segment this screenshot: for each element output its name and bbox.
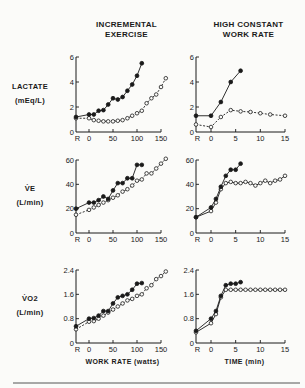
data-point-open (102, 120, 106, 124)
panel-lactate-incremental: 0246R050100150INCREMENTALEXERCISELACTATE… (12, 20, 168, 143)
data-point-open (273, 179, 277, 183)
data-point-open (283, 114, 287, 118)
figure: 0246R050100150INCREMENTALEXERCISELACTATE… (0, 0, 305, 388)
data-point-open (106, 120, 110, 124)
x-tick-label: 5 (234, 134, 238, 143)
data-point-open (249, 288, 253, 292)
x-tick-label: R (75, 235, 81, 244)
data-point-open (283, 174, 287, 178)
y-tick-label: 0 (190, 339, 194, 348)
data-point-filled (121, 181, 125, 185)
data-point-open (209, 209, 213, 213)
y-tick-label: 0 (70, 229, 74, 238)
x-axis-label: WORK RATE (watts) (86, 358, 160, 366)
data-point-open (97, 203, 101, 207)
y-axis-label: V̇O2 (22, 294, 38, 303)
data-point-open (87, 208, 91, 212)
column-title: EXERCISE (105, 30, 148, 39)
x-tick-label: 150 (155, 134, 168, 143)
data-point-open (87, 116, 91, 120)
data-point-filled (92, 201, 96, 205)
data-point-open (102, 201, 106, 205)
data-point-open (74, 213, 78, 217)
data-point-open (92, 206, 96, 210)
x-tick-label: 5 (234, 235, 238, 244)
data-point-filled (121, 95, 125, 99)
data-point-open (268, 113, 272, 117)
y-tick-label: 0.8 (64, 314, 74, 323)
data-point-open (135, 179, 139, 183)
data-point-open (239, 288, 243, 292)
data-point-open (145, 286, 149, 290)
data-point-filled (214, 197, 218, 201)
data-point-open (263, 179, 267, 183)
data-point-open (209, 125, 213, 129)
data-point-filled (194, 329, 198, 333)
data-point-filled (126, 89, 130, 93)
panel-vo2-constant: 00.81.62.4R051015TIME (min) (184, 266, 290, 366)
panel-ve-incremental: 0204060R050100150V̇E(L/min) (16, 156, 167, 244)
y-tick-label: 6 (70, 53, 74, 62)
data-point-open (135, 111, 139, 115)
x-tick-label: 100 (131, 134, 144, 143)
data-point-filled (209, 114, 213, 118)
x-tick-label: R (195, 235, 201, 244)
data-point-filled (126, 292, 130, 296)
data-point-open (259, 181, 263, 185)
data-point-open (229, 180, 233, 184)
y-tick-label: 1.6 (184, 290, 194, 299)
data-point-filled (234, 282, 238, 286)
data-point-open (121, 302, 125, 306)
data-point-filled (219, 185, 223, 189)
y-tick-label: 40 (66, 180, 74, 189)
data-point-open (159, 162, 163, 166)
x-tick-label: 0 (87, 235, 91, 244)
x-tick-label: 10 (256, 345, 264, 354)
data-point-filled (135, 74, 139, 78)
data-point-filled (214, 309, 218, 313)
panel-vo2-incremental: 00.81.62.4R050100150V̇O2(L/min)WORK RATE… (16, 266, 167, 366)
column-title: WORK RATE (223, 30, 275, 39)
data-point-open (244, 288, 248, 292)
x-tick-label: 15 (281, 134, 289, 143)
data-point-filled (97, 314, 101, 318)
data-point-filled (102, 195, 106, 199)
data-point-filled (194, 215, 198, 219)
data-point-filled (74, 207, 78, 211)
x-tick-label: 100 (131, 345, 144, 354)
data-point-filled (102, 309, 106, 313)
series-line-open (196, 290, 285, 333)
data-point-open (116, 305, 120, 309)
data-point-open (268, 288, 272, 292)
y-tick-label: 0 (190, 128, 194, 137)
y-tick-label: 0 (70, 128, 74, 137)
data-point-open (126, 116, 130, 120)
data-point-open (150, 96, 154, 100)
y-tick-label: 6 (190, 53, 194, 62)
data-point-filled (116, 181, 120, 185)
column-title: HIGH CONSTANT (214, 20, 284, 29)
y-tick-label: 1.6 (64, 290, 74, 299)
data-point-open (145, 101, 149, 105)
x-tick-label: 0 (87, 345, 91, 354)
data-point-filled (106, 309, 110, 313)
y-axis-label: V̇E (25, 184, 36, 193)
data-point-filled (130, 288, 134, 292)
data-point-open (154, 277, 158, 281)
y-tick-label: 40 (186, 180, 194, 189)
y-tick-label: 2 (190, 103, 194, 112)
data-point-filled (87, 113, 91, 117)
data-point-filled (209, 206, 213, 210)
x-tick-label: 15 (281, 345, 289, 354)
data-point-open (130, 297, 134, 301)
data-point-open (219, 115, 223, 119)
x-tick-label: 100 (131, 235, 144, 244)
data-point-filled (74, 115, 78, 119)
y-tick-label: 2.4 (64, 266, 74, 275)
y-axis-label: LACTATE (12, 82, 48, 91)
x-tick-label: 10 (256, 235, 264, 244)
data-point-filled (97, 198, 101, 202)
data-point-open (130, 184, 134, 188)
data-point-open (140, 293, 144, 297)
data-point-filled (234, 168, 238, 172)
